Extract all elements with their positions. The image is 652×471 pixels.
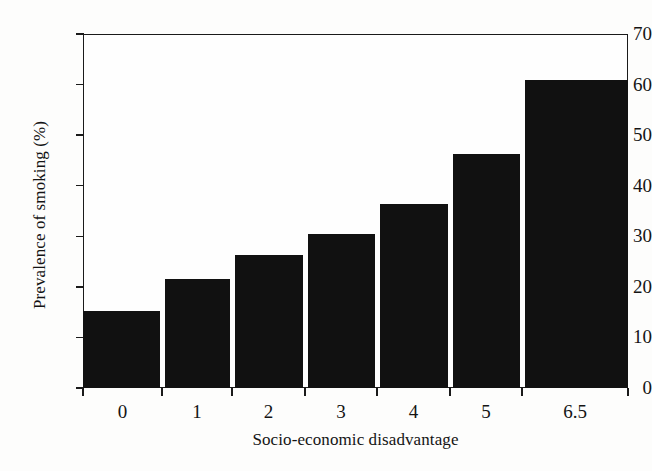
bar (380, 204, 448, 388)
x-axis-tick-label: 4 (384, 402, 444, 421)
x-axis-tick (376, 388, 377, 396)
bar (453, 154, 520, 388)
x-axis-tick-label: 1 (167, 402, 227, 421)
x-axis-tick-label: 3 (311, 402, 371, 421)
x-axis-tick (231, 388, 232, 396)
x-axis-tick (521, 388, 522, 396)
x-axis-tick (449, 388, 450, 396)
bar (83, 311, 160, 388)
bar (165, 279, 230, 388)
x-axis-tick (627, 388, 628, 396)
bar (235, 255, 303, 389)
x-axis-tick (161, 388, 162, 396)
chart-figure: Prevalence of smoking (%) 01020304050607… (0, 0, 652, 471)
bar (525, 80, 629, 388)
bar-series (83, 34, 628, 388)
y-axis-title: Prevalence of smoking (%) (30, 65, 50, 365)
bar (308, 234, 375, 388)
x-axis-tick-label: 2 (239, 402, 299, 421)
x-axis-tick (82, 388, 83, 396)
x-axis-tick (304, 388, 305, 396)
x-axis-tick-label: 5 (456, 402, 516, 421)
x-axis-tick-label: 0 (93, 402, 153, 421)
x-axis-title: Socio-economic disadvantage (83, 430, 628, 450)
x-axis-tick-label: 6.5 (545, 402, 605, 421)
